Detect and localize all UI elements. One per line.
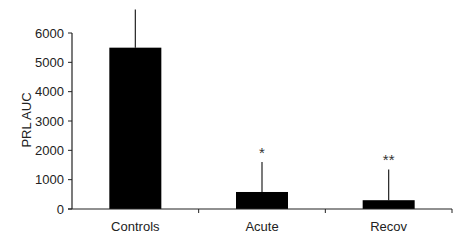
y-tick-label: 2000 (35, 143, 64, 158)
significance-marker: ** (383, 151, 395, 168)
y-tick-label: 1000 (35, 172, 64, 187)
bar-recov (363, 200, 415, 209)
bar-controls (109, 48, 161, 209)
y-axis-title: PRL AUC (19, 92, 34, 147)
bar-chart: 0100020003000400050006000 *** ControlsAc… (0, 0, 472, 242)
y-tick-label: 4000 (35, 84, 64, 99)
y-tick-label: 3000 (35, 114, 64, 129)
x-axis-labels: ControlsAcuteRecov (111, 219, 407, 234)
y-tick-label: 0 (57, 202, 64, 217)
x-category-label: Acute (245, 219, 278, 234)
x-category-label: Recov (370, 219, 407, 234)
y-tick-label: 6000 (35, 26, 64, 41)
bars: *** (109, 10, 414, 213)
bar-acute (236, 192, 288, 209)
y-tick-label: 5000 (35, 55, 64, 70)
y-axis-ticks: 0100020003000400050006000 (35, 26, 72, 217)
x-category-label: Controls (111, 219, 160, 234)
significance-marker: * (259, 144, 265, 161)
